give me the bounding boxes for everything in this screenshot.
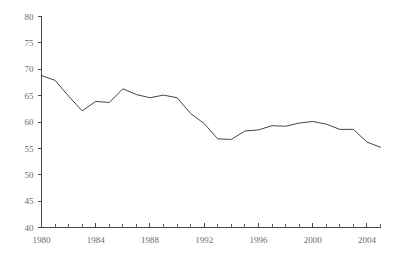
x-tick-label: 2004 bbox=[358, 235, 377, 245]
y-tick-label: 70 bbox=[25, 64, 35, 74]
y-tick-label: 80 bbox=[25, 12, 35, 22]
y-tick-label: 45 bbox=[25, 196, 35, 206]
x-tick-label: 1992 bbox=[195, 235, 213, 245]
y-tick-label: 60 bbox=[25, 117, 35, 127]
x-axis: 1980198419881992199620002004 bbox=[33, 223, 381, 245]
y-tick-label: 50 bbox=[25, 170, 35, 180]
x-tick-label: 1984 bbox=[87, 235, 106, 245]
data-series-group bbox=[42, 76, 381, 148]
x-tick-label: 1996 bbox=[249, 235, 268, 245]
x-tick-label: 1988 bbox=[141, 235, 160, 245]
chart-plot-area: 404550556065707580 198019841988199219962… bbox=[0, 0, 396, 267]
x-tick-label: 2000 bbox=[304, 235, 323, 245]
y-tick-label: 55 bbox=[25, 144, 35, 154]
y-tick-label: 75 bbox=[25, 38, 35, 48]
y-tick-label: 40 bbox=[25, 223, 35, 233]
data-line-1 bbox=[42, 76, 381, 148]
line-chart: 404550556065707580 198019841988199219962… bbox=[0, 0, 396, 267]
x-tick-label: 1980 bbox=[33, 235, 52, 245]
y-axis: 404550556065707580 bbox=[25, 12, 42, 233]
y-tick-label: 65 bbox=[25, 91, 35, 101]
